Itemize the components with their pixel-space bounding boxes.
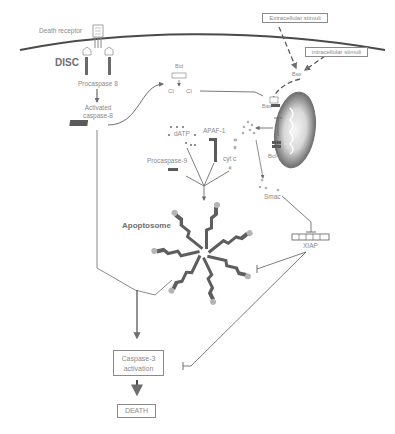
tbid-right-label: CI [186,88,192,94]
activated-caspase8-icon [69,120,88,126]
apaf1-icon [209,138,217,162]
xiap-label: XIAP [303,243,318,250]
death-receptor-icon [83,25,113,75]
tbid-left-label: CI [168,88,174,94]
disc-label: DISC [55,58,79,68]
caspase3-line2: activation [114,365,163,373]
death-receptor-label: Death receptor [39,28,82,35]
bcl2-label: Bcl-2 [268,153,282,159]
apaf1-label: APAF-1 [203,128,225,135]
bid-label: Bid [175,64,183,70]
intracellular-stimuli-box: intracellular stimuli [305,47,368,57]
activated-caspase8-line2: caspase-8 [80,113,116,120]
procaspase9-label: Procaspase-9 [147,158,187,165]
datp-label: dATP [174,131,190,138]
apoptosis-pathway-diagram: Death receptor DISC Procaspase 8 Activat… [0,0,395,434]
procaspase9-icon [168,168,178,171]
activated-caspase8-line1: Activated [80,105,116,112]
activated-caspase8-label: Activated caspase-8 [80,105,116,119]
bax-membrane-label: Bax [262,104,271,110]
caspase3-line1: Caspase-3 [114,355,163,363]
bid-icon [172,73,186,86]
smac-label: Smac [264,194,281,201]
cytc-label: cyt c [223,156,236,163]
apoptosome-wheel [151,202,254,306]
procaspase8-label: Procaspase 8 [78,81,118,88]
bax-cytosol-label: Bax [292,72,301,78]
apoptosome-label: Apoptosome [122,222,171,230]
cytc-molecules [229,139,237,170]
death-box: DEATH [117,404,156,418]
xiap-icon [292,234,329,240]
caspase3-activation-box: Caspase-3 activation [113,350,164,376]
extracellular-stimuli-box: Extracellular stimuli [262,13,328,23]
